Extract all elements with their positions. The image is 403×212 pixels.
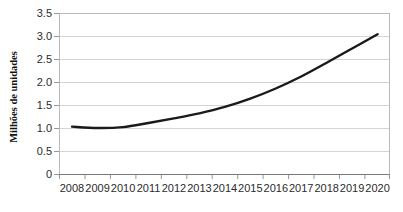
y-axis-title: Milhões de unidades — [8, 51, 19, 143]
chart-container: Milhões de unidades 3.5 3.0 2.5 2.0 1.5 … — [0, 0, 403, 212]
y-tick-label: 1.0 — [37, 122, 52, 134]
x-tick-label: 2016 — [264, 182, 288, 194]
x-tick-label: 2013 — [187, 182, 211, 194]
x-tick-label: 2014 — [213, 182, 237, 194]
y-tick-label: 2.5 — [37, 53, 52, 65]
y-tick-label: 3.0 — [37, 30, 52, 42]
x-tick-label: 2010 — [111, 182, 135, 194]
x-tick-label: 2017 — [289, 182, 313, 194]
x-tick-label: 2009 — [85, 182, 109, 194]
x-tick-label: 2015 — [238, 182, 262, 194]
y-tick-label: 2.0 — [37, 76, 52, 88]
y-tick-label: 0.5 — [37, 145, 52, 157]
y-tick-label: 0 — [46, 168, 52, 180]
chart-background — [0, 0, 403, 212]
y-tick-label: 3.5 — [37, 7, 52, 19]
x-tick-label: 2012 — [162, 182, 186, 194]
x-tick-label: 2018 — [314, 182, 338, 194]
x-tick-label: 2008 — [60, 182, 84, 194]
x-tick-label: 2019 — [340, 182, 364, 194]
y-tick-label: 1.5 — [37, 99, 52, 111]
x-tick-label: 2011 — [137, 182, 161, 194]
x-tick-label: 2020 — [365, 182, 389, 194]
line-chart: Milhões de unidades 3.5 3.0 2.5 2.0 1.5 … — [0, 0, 403, 212]
x-axis-tick-labels: 2008 2009 2010 2011 2012 2013 2014 2015 … — [60, 182, 390, 194]
